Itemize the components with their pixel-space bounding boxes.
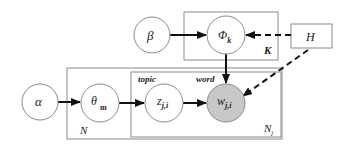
topic-annotation: topic	[138, 74, 156, 84]
nj-plate-label: Nj	[263, 122, 273, 137]
n-plate-label: N	[79, 124, 88, 136]
k-plate-label: K	[263, 44, 272, 56]
phi-node: Φk	[207, 16, 245, 54]
word-annotation: word	[196, 74, 215, 84]
h-label: H	[305, 30, 316, 44]
svg-text:α: α	[35, 94, 43, 109]
alpha-node: α	[22, 84, 58, 120]
edge-h-w	[243, 50, 308, 96]
z-node: zj,i	[145, 84, 183, 122]
svg-text:β: β	[146, 28, 154, 43]
theta-node: θm	[81, 84, 119, 122]
graphical-model-diagram: K N Nj H β Φk α θm topic zj,i word wj,i	[0, 0, 351, 149]
w-node-observed: wj,i	[207, 84, 245, 122]
beta-node: β	[134, 17, 170, 53]
